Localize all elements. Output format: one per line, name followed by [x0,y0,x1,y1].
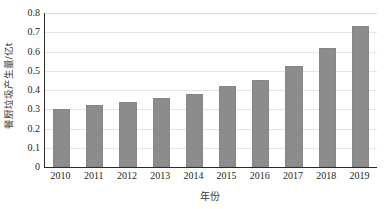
bar-slot [45,13,78,167]
bar-slot [78,13,111,167]
y-tick-label: 0.4 [14,85,40,95]
bars-layer [45,13,377,167]
y-tick-label: 0.3 [14,104,40,114]
bar-slot [277,13,310,167]
x-tick-label: 2019 [343,169,376,185]
x-tick-label: 2011 [77,169,110,185]
x-tick-label: 2016 [243,169,276,185]
y-axis-title-text: 餐厨垃圾产生量/亿t [1,43,15,130]
y-tick-label: 0.8 [14,8,40,18]
bar[interactable] [119,102,136,167]
x-tick-label: 2014 [177,169,210,185]
x-axis-tick-labels: 2010201120122013201420152016201720182019 [44,169,376,185]
bar[interactable] [352,26,369,167]
bar-slot [211,13,244,167]
bar-slot [111,13,144,167]
y-tick-label: 0 [14,162,40,172]
bar[interactable] [252,80,269,167]
plot-area [44,13,377,168]
bar-slot [311,13,344,167]
bar-slot [244,13,277,167]
bar[interactable] [53,109,70,167]
bar[interactable] [219,86,236,167]
bar[interactable] [319,48,336,167]
bar[interactable] [86,105,103,167]
bar[interactable] [153,98,170,167]
x-tick-label: 2012 [110,169,143,185]
x-tick-label: 2010 [44,169,77,185]
y-tick-label: 0.5 [14,66,40,76]
x-axis-title: 年份 [44,188,376,203]
bar-slot [344,13,377,167]
x-tick-label: 2015 [210,169,243,185]
y-tick-label: 0.2 [14,124,40,134]
bar-chart-figure: 餐厨垃圾产生量/亿t 0.80.70.60.50.40.30.20.10 201… [0,0,384,209]
x-tick-label: 2013 [144,169,177,185]
bar-slot [178,13,211,167]
y-tick-label: 0.6 [14,47,40,57]
x-tick-label: 2018 [310,169,343,185]
y-tick-label: 0.1 [14,143,40,153]
bar-slot [145,13,178,167]
y-axis-tick-labels: 0.80.70.60.50.40.30.20.10 [14,13,40,167]
y-tick-label: 0.7 [14,27,40,37]
x-tick-label: 2017 [276,169,309,185]
bar[interactable] [285,66,302,167]
bar[interactable] [186,94,203,167]
